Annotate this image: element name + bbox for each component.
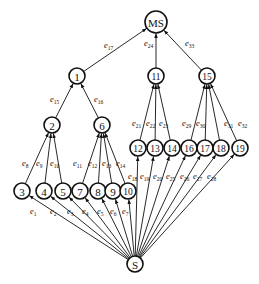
nodes-group: MS11115261213141617181934578910S [14, 11, 248, 272]
node-label: 15 [202, 72, 212, 82]
node-label: 17 [200, 144, 210, 154]
node-17: 17 [197, 140, 213, 156]
node-label: 11 [151, 72, 160, 82]
edge-e21 [140, 84, 154, 140]
edge-e30 [205, 84, 207, 140]
edge-e17 [84, 28, 147, 71]
edge-label: e21 [132, 118, 142, 129]
edge-e19 [136, 156, 153, 256]
node-1: 1 [69, 68, 85, 84]
node-11: 11 [148, 68, 164, 84]
edge-label: e8 [22, 158, 29, 169]
node-16: 16 [181, 140, 197, 156]
node-9: 9 [105, 183, 121, 199]
edge-label: e26 [180, 171, 190, 182]
node-label: 4 [41, 186, 47, 198]
node-label: 18 [216, 144, 226, 154]
node-MS: MS [145, 11, 167, 33]
node-label: 14 [167, 144, 177, 154]
node-15: 15 [199, 68, 215, 84]
edge-label: e30 [196, 118, 206, 129]
edge-label: e18 [128, 171, 138, 182]
edge-e26 [139, 155, 200, 257]
node-label: 6 [99, 120, 105, 132]
edge-label: e2 [50, 206, 57, 217]
node-label: 12 [133, 144, 143, 154]
edge-label: e29 [182, 118, 192, 129]
node-18: 18 [213, 140, 229, 156]
node-13: 13 [147, 140, 163, 156]
node-label: 3 [19, 186, 25, 198]
edge-label: e4 [82, 206, 89, 217]
node-label: 7 [77, 186, 83, 198]
edge-label: e3 [67, 206, 74, 217]
edge-label: e15 [50, 94, 60, 105]
node-14: 14 [164, 140, 180, 156]
edge-label: e9 [36, 158, 43, 169]
edge-e29 [191, 84, 205, 140]
node-label: 10 [123, 187, 133, 197]
edge-e22 [155, 84, 156, 140]
node-12: 12 [130, 140, 146, 156]
edge-label: e27 [193, 171, 203, 182]
node-5: 5 [55, 183, 71, 199]
edge-e23 [158, 84, 170, 140]
edge-label: e32 [238, 118, 248, 129]
edge-label: e33 [185, 38, 195, 49]
node-7: 7 [72, 183, 88, 199]
edge-label: e5 [97, 206, 104, 217]
node-label: 13 [150, 144, 160, 154]
node-8: 8 [90, 183, 106, 199]
edge-label: e7 [122, 206, 129, 217]
node-label: 8 [95, 186, 101, 198]
node-19: 19 [232, 140, 248, 156]
edge-label: e24 [144, 38, 154, 49]
edge-label: e16 [94, 94, 104, 105]
node-label: 9 [110, 186, 116, 198]
node-3: 3 [14, 183, 30, 199]
node-label: S [132, 259, 138, 271]
edge-label: e12 [88, 158, 98, 169]
node-10: 10 [120, 183, 136, 199]
edge-label: e17 [104, 40, 114, 51]
node-label: 2 [49, 120, 55, 132]
node-label: 5 [60, 186, 66, 198]
edge-e28 [140, 154, 234, 258]
node-4: 4 [36, 183, 52, 199]
edge-e18 [135, 156, 138, 256]
edge-label: e31 [224, 118, 234, 129]
node-label: 19 [235, 144, 245, 154]
edge-label: e28 [207, 171, 217, 182]
edge-label: e19 [140, 171, 150, 182]
edge-label: e11 [73, 158, 82, 169]
edge-label: e23 [159, 118, 169, 129]
edge-label: e1 [30, 206, 37, 217]
edge-label: e13 [102, 158, 112, 169]
edge-e33 [164, 30, 202, 70]
edge-e5 [102, 199, 132, 257]
edge-label: e20 [153, 171, 163, 182]
node-label: 16 [184, 144, 194, 154]
node-label: 1 [74, 71, 80, 83]
node-6: 6 [94, 117, 110, 133]
edge-label: e25 [166, 171, 176, 182]
network-diagram: e1e2e3e4e5e6e7e8e9e10e11e12e13e14e15e16e… [0, 0, 259, 284]
node-label: MS [148, 17, 164, 29]
node-2: 2 [44, 117, 60, 133]
edge-e10 [53, 133, 61, 183]
edge-label: e22 [146, 118, 156, 129]
edge-label: e6 [110, 206, 117, 217]
edge-label: e14 [116, 158, 126, 169]
edge-e31 [209, 84, 220, 140]
node-S: S [127, 256, 143, 272]
